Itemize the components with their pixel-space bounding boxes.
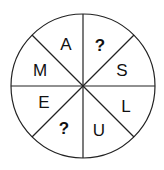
sector-left-upper-letter: M [33, 61, 47, 80]
sector-bottom-left-letter: ? [59, 119, 69, 138]
sector-right-lower-letter: L [121, 97, 130, 116]
sector-top-left-letter: A [60, 35, 72, 54]
sector-left-lower-letter: E [38, 93, 49, 112]
sector-top-right-letter: ? [95, 36, 105, 55]
sector-right-upper-letter: S [116, 61, 127, 80]
letter-wheel-diagram: A ? S L U ? E M [0, 0, 164, 170]
sector-bottom-right-letter: U [93, 121, 105, 140]
